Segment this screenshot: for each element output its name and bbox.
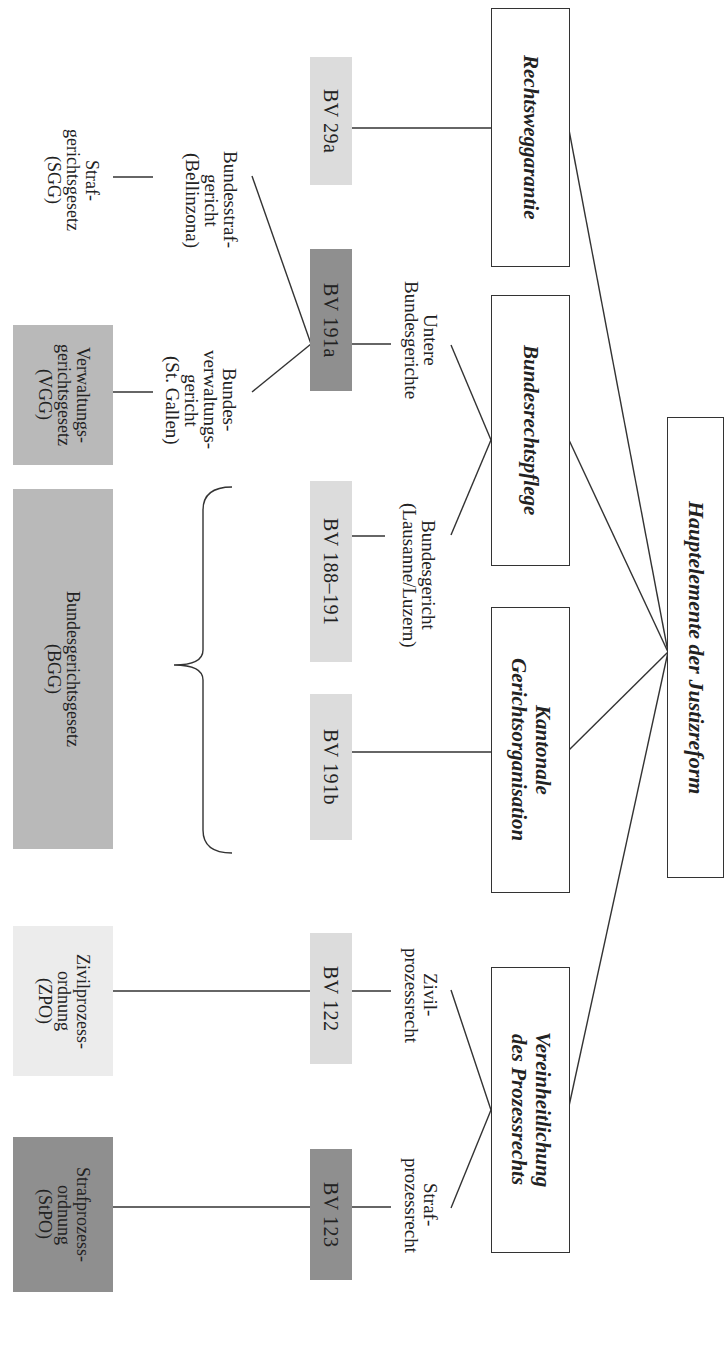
main-title-box: Hauptelemente der Justizreform xyxy=(667,417,724,878)
law-stpo: Strafprozess- ordnung (StPO) xyxy=(13,1137,113,1292)
law-label: Bundesgerichtsgesetz (BGG) xyxy=(44,591,82,747)
category-label: Vereinheitlichung des Prozessrechts xyxy=(507,1032,555,1187)
article-bv-191b: BV 191b xyxy=(310,694,352,840)
law-label: Strafprozess- ordnung (StPO) xyxy=(35,1167,92,1262)
label-text: Bundes- verwaltungs- gericht (St. Gallen… xyxy=(163,350,239,449)
label-bundesgericht: Bundesgericht (Lausanne/Luzern) xyxy=(386,465,452,685)
label-zivilprozessrecht: Zivil- prozessrecht xyxy=(390,930,452,1060)
category-label: Rechtsweggarantie xyxy=(519,55,543,220)
article-bv-123: BV 123 xyxy=(310,1149,352,1280)
label-bundesstrafgericht: Bundesstraf- gericht (Bellinzona) xyxy=(168,130,254,270)
label-text: Bundesgericht (Lausanne/Luzern) xyxy=(400,503,438,648)
article-bv-191a: BV 191a xyxy=(310,249,352,391)
article-label: BV 188–191 xyxy=(320,518,342,625)
article-bv-29a: BV 29a xyxy=(310,57,352,185)
article-label: BV 191a xyxy=(320,283,342,358)
label-bundesverwaltungsgericht: Bundes- verwaltungs- gericht (St. Gallen… xyxy=(148,335,254,465)
article-label: BV 122 xyxy=(320,966,342,1031)
label-text: Bundesstraf- gericht (Bellinzona) xyxy=(183,151,240,248)
law-label: Verwaltungs- gerichtsgesetz (VGG) xyxy=(35,344,92,446)
main-title: Hauptelemente der Justizreform xyxy=(683,501,709,794)
label-untere-bundesgerichte: Untere Bundesgerichte xyxy=(390,250,452,430)
law-bgg: Bundesgerichtsgesetz (BGG) xyxy=(13,489,113,849)
category-rechtsweggarantie: Rechtsweggarantie xyxy=(491,8,570,267)
law-zpo: Zivilprozess- ordnung (ZPO) xyxy=(13,926,113,1076)
article-label: BV 191b xyxy=(320,729,342,805)
article-bv-122: BV 122 xyxy=(310,933,352,1064)
label-text: Untere Bundesgerichte xyxy=(402,281,440,399)
article-bv-188-191: BV 188–191 xyxy=(310,481,352,662)
article-label: BV 29a xyxy=(320,89,342,153)
law-sgg: Straf- gerichtsgesetz (SGG) xyxy=(30,110,114,250)
label-text: Zivil- prozessrecht xyxy=(402,948,440,1043)
label-strafprozessrecht: Straf- prozessrecht xyxy=(390,1140,452,1270)
category-kantonale-gerichtsorganisation: Kantonale Gerichtsorganisation xyxy=(491,607,570,893)
label-text: Straf- prozessrecht xyxy=(402,1158,440,1253)
article-label: BV 123 xyxy=(320,1182,342,1247)
category-vereinheitlichung-prozessrecht: Vereinheitlichung des Prozessrechts xyxy=(491,967,570,1253)
law-label: Zivilprozess- ordnung (ZPO) xyxy=(35,954,92,1049)
law-vgg: Verwaltungs- gerichtsgesetz (VGG) xyxy=(13,325,113,465)
category-bundesrechtspflege: Bundesrechtspflege xyxy=(491,295,570,566)
category-label: Kantonale Gerichtsorganisation xyxy=(507,658,555,841)
category-label: Bundesrechtspflege xyxy=(519,345,543,515)
law-label: Straf- gerichtsgesetz (SGG) xyxy=(44,129,101,231)
